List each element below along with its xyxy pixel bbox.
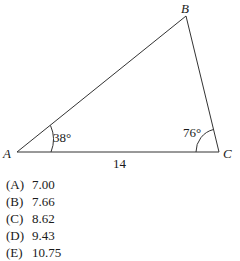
option-e: (E)10.75 <box>6 244 61 261</box>
answer-options: (A)7.00 (B)7.66 (C)8.62 (D)9.43 (E)10.75 <box>6 176 61 261</box>
vertex-b-label: B <box>181 2 189 15</box>
angle-c-label: 76° <box>183 126 201 139</box>
angle-a-label: 38° <box>53 131 71 144</box>
vertex-a-label: A <box>3 147 11 160</box>
side-ac-label: 14 <box>113 157 126 170</box>
option-d: (D)9.43 <box>6 227 61 244</box>
triangle-diagram <box>0 0 240 175</box>
option-a: (A)7.00 <box>6 176 61 193</box>
option-c: (C)8.62 <box>6 210 61 227</box>
triangle-figure: A B C 38° 76° 14 <box>0 0 240 175</box>
option-b: (B)7.66 <box>6 193 61 210</box>
vertex-c-label: C <box>223 147 232 160</box>
